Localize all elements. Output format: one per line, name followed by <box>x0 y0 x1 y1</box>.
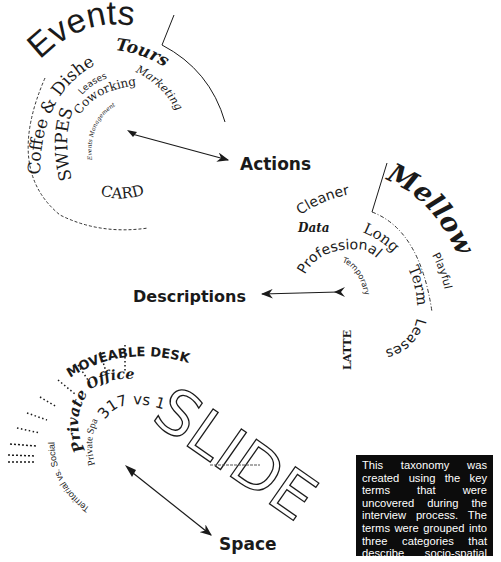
space-cluster: SLIDE MOVEABLE DESKS Office Private 317 … <box>0 0 330 554</box>
term-data: Data <box>297 221 330 235</box>
descriptions-cluster: Mellow Cleaner Data Long Term Leases Pla… <box>133 157 481 370</box>
term-playful: Playful <box>429 251 454 291</box>
term-cleaner: Cleaner <box>293 182 350 218</box>
term-leases-descriptions: Leases <box>384 317 429 362</box>
term-card: CARD <box>99 181 146 203</box>
term-slide: SLIDE <box>141 372 330 535</box>
term-term: Term <box>404 263 431 306</box>
descriptions-outer-line <box>372 163 387 212</box>
term-professional: Professional <box>294 236 386 276</box>
category-label-actions: Actions <box>240 154 311 174</box>
term-events: Events <box>19 0 136 65</box>
term-events-management: Events Management <box>86 100 117 161</box>
space-arrow-tail-icon <box>125 465 136 477</box>
taxonomy-note: This taxonomy was created using the key … <box>356 455 493 556</box>
descriptions-arrow <box>262 292 338 294</box>
term-temporary: Temporary <box>340 255 371 296</box>
term-latte: LATTE <box>341 330 354 370</box>
category-label-descriptions: Descriptions <box>133 287 246 306</box>
category-label-space: Space <box>219 534 277 554</box>
actions-cluster: Events Tours Marketing Coffee & Dishes L… <box>0 0 311 230</box>
space-arrow <box>133 473 211 535</box>
actions-arrow-tail-icon <box>127 130 137 137</box>
term-swipes: SWIPES <box>51 105 77 183</box>
term-marketing: Marketing <box>133 63 185 113</box>
taxonomy-diagram: Events Tours Marketing Coffee & Dishes L… <box>0 0 501 562</box>
actions-arrow <box>132 134 228 160</box>
